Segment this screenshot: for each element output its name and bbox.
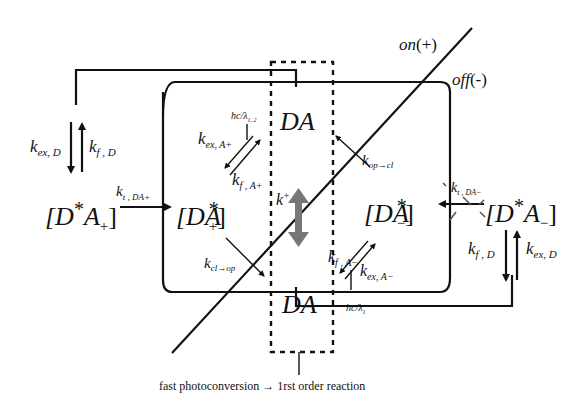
off-sign: (-): [470, 70, 487, 89]
caption-fast-photoconversion: fast photoconversion → 1rst order reacti…: [159, 379, 365, 393]
rate-k-t-DA-plus: kt , DA+: [116, 183, 150, 202]
rate-k-t-DA-minus: kt , DA−: [451, 180, 482, 197]
outer-connector-bottom: [296, 275, 512, 306]
state-DA-star-minus: [DA*−]: [364, 195, 414, 231]
on-sign: (+): [416, 35, 437, 54]
rate-k-f-A-plus: kf , A+: [232, 170, 263, 191]
rate-k-ex-D-right: kex, D: [526, 239, 557, 260]
rate-hc-lambda-12: hc/λ1, 2: [231, 110, 257, 123]
rate-k-cl-op: kcl→op: [204, 255, 236, 273]
state-D-star-A-plus: [D*A+]: [45, 198, 117, 234]
state-DA-closed: DA: [281, 290, 317, 319]
rate-k-ex-A-plus: kex, A+: [198, 129, 232, 150]
state-DA-star-plus: [DA*+]: [176, 198, 226, 234]
rate-k-f-D-left: kf , D: [89, 137, 116, 158]
on-label: on: [399, 35, 416, 54]
rate-k-ex-D-left: kex, D: [30, 137, 61, 158]
svg-text:on(+): on(+): [399, 35, 437, 54]
rate-k-ex-A-minus: kex, A−: [360, 262, 394, 282]
photochromic-scheme-diagram: on(+) off(-) DA DA [D*A+] [DA*+] [DA*−] …: [0, 0, 588, 412]
rate-k-f-D-right: kf , D: [468, 239, 495, 260]
rate-hc-lambda-1: hc/λ1: [346, 302, 366, 315]
state-DA-open: DA: [279, 107, 315, 136]
state-D-star-A-minus: [D*A−]: [485, 195, 557, 231]
rate-k-op-cl: kop→cl: [362, 152, 394, 170]
photoconversion-double-arrow-icon: [288, 188, 309, 247]
on-off-divider-line: [172, 28, 472, 353]
outer-connector-top: [76, 70, 296, 105]
rate-k-plus: k+: [276, 190, 290, 208]
svg-text:off(-): off(-): [452, 70, 487, 89]
